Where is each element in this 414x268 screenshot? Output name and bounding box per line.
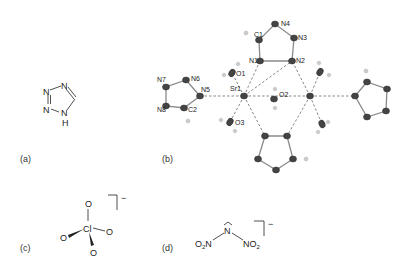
charge-minus: − (121, 193, 126, 203)
panel-label-d: (d) (162, 243, 173, 253)
atom-o: O (85, 199, 92, 209)
panel-c-perchlorate: O Cl O O O − (c) (20, 193, 126, 258)
atom-h: H (62, 118, 69, 128)
panel-a-tetrazole: N N N N H (a) (20, 81, 76, 164)
atom-o: O (60, 233, 67, 243)
atom-label-c1: C1 (254, 31, 263, 38)
panel-label-b: (b) (162, 154, 173, 164)
atoms (163, 21, 391, 173)
atom-label-sr1: Sr1 (230, 85, 241, 92)
group-o2n: O2N (195, 239, 212, 250)
atom-label-o1: O1 (236, 70, 245, 77)
atom-label-c2: C2 (188, 106, 197, 113)
atom-n: N (61, 108, 68, 118)
atom-label-n8: N8 (157, 106, 166, 113)
atom-n: N (43, 105, 50, 115)
atom-label-o2: O2 (279, 91, 288, 98)
panel-d-dinitramide: O2N N NO2 − (d) (162, 219, 273, 253)
atom-label-n7: N7 (157, 76, 166, 83)
atom-n: N (61, 81, 68, 91)
group-no2: NO2 (243, 239, 261, 250)
atom-o: O (90, 248, 97, 258)
charge-minus: − (268, 219, 273, 229)
atom-n-center: N (224, 226, 231, 236)
panel-label-a: (a) (20, 154, 31, 164)
atom-label-n3: N3 (298, 34, 307, 41)
figure-canvas: N N N N H (a) (0, 0, 414, 268)
panel-label-c: (c) (20, 243, 31, 253)
atom-label-n2: N2 (296, 57, 305, 64)
atom-label-o3: O3 (235, 119, 244, 126)
atom-o: O (106, 227, 113, 237)
atom-label-n5: N5 (201, 86, 210, 93)
atom-label-n6: N6 (191, 75, 200, 82)
atom-label-n4: N4 (281, 20, 290, 27)
panel-b-structure: C1 N4 N3 N1 N2 O1 N7 N6 N5 Sr1 O2 N8 C2 … (157, 20, 391, 173)
atom-label-n1: N1 (249, 57, 258, 64)
atom-n: N (43, 87, 50, 97)
atom-cl: Cl (83, 224, 92, 234)
